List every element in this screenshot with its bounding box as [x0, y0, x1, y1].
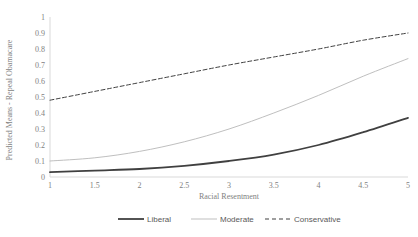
y-tick-label-4: 0.4: [35, 109, 45, 118]
y-tick-label-8: 0.8: [35, 45, 45, 54]
series-line-liberal: [50, 118, 408, 172]
chart-container: Predicted Means - Repeal Obamacare 00.10…: [0, 0, 418, 237]
y-tick-label-6: 0.6: [35, 77, 45, 86]
x-tick-label-3: 2.5: [179, 181, 189, 190]
data-series-group: [50, 33, 408, 172]
chart-legend: LiberalModerateConservative: [118, 215, 341, 224]
x-tick-label-2: 2: [138, 181, 142, 190]
x-tick-label-1: 1.5: [90, 181, 100, 190]
y-axis-tick-labels: 00.10.20.30.40.50.60.70.80.91: [35, 13, 45, 182]
y-tick-label-7: 0.7: [35, 61, 45, 70]
y-tick-label-10: 1: [41, 13, 45, 22]
line-chart: Predicted Means - Repeal Obamacare 00.10…: [0, 0, 418, 237]
series-line-conservative: [50, 33, 408, 100]
y-tick-label-3: 0.3: [35, 125, 45, 134]
legend-label-conservative: Conservative: [294, 215, 341, 224]
y-axis-title: Predicted Means - Repeal Obamacare: [5, 39, 14, 160]
x-tick-label-0: 1: [48, 181, 52, 190]
y-tick-label-9: 0.9: [35, 29, 45, 38]
y-tick-label-1: 0.1: [35, 157, 45, 166]
y-tick-label-2: 0.2: [35, 141, 45, 150]
x-axis-tick-labels: 11.522.533.544.55: [48, 181, 410, 190]
x-tick-label-8: 5: [406, 181, 410, 190]
legend-label-moderate: Moderate: [220, 215, 254, 224]
y-tick-label-5: 0.5: [35, 93, 45, 102]
x-tick-label-5: 3.5: [269, 181, 279, 190]
x-tick-label-6: 4: [317, 181, 321, 190]
legend-label-liberal: Liberal: [147, 215, 171, 224]
x-axis-title: Racial Resentment: [199, 192, 260, 201]
x-tick-label-7: 4.5: [358, 181, 368, 190]
x-tick-label-4: 3: [227, 181, 231, 190]
y-tick-label-0: 0: [41, 173, 45, 182]
series-line-moderate: [50, 59, 408, 161]
